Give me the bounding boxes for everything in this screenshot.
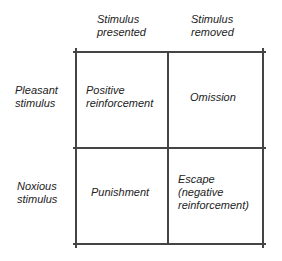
row-header-line: stimulus [15,97,58,110]
row-header-noxious-stimulus: Noxious stimulus [17,180,57,206]
cell-line: Escape [178,173,249,186]
row-header-line: Pleasant [15,84,58,97]
grid-center-divider [167,51,169,244]
grid-left-border [75,48,77,248]
cell-positive-reinforcement: Positive reinforcement [86,84,153,110]
cell-line: reinforcement [86,97,153,110]
column-header-line: removed [191,26,234,39]
cell-line: Punishment [91,186,149,199]
cell-punishment: Punishment [91,186,149,199]
column-header-stimulus-presented: Stimulus presented [97,13,146,39]
column-header-stimulus-removed: Stimulus removed [191,13,234,39]
grid-top-border [73,51,266,53]
cell-line: Omission [190,91,236,104]
cell-line: (negative [178,186,249,199]
column-header-line: Stimulus [97,13,146,26]
grid-right-border [262,48,264,248]
column-header-line: Stimulus [191,13,234,26]
cell-line: reinforcement) [178,199,249,212]
row-header-line: stimulus [17,193,57,206]
cell-line: Positive [86,84,153,97]
row-header-pleasant-stimulus: Pleasant stimulus [15,84,58,110]
grid-middle-divider [73,147,266,149]
column-header-line: presented [97,26,146,39]
cell-omission: Omission [190,91,236,104]
row-header-line: Noxious [17,180,57,193]
cell-escape-negative-reinforcement: Escape (negative reinforcement) [178,173,249,212]
grid-bottom-border [73,243,266,245]
